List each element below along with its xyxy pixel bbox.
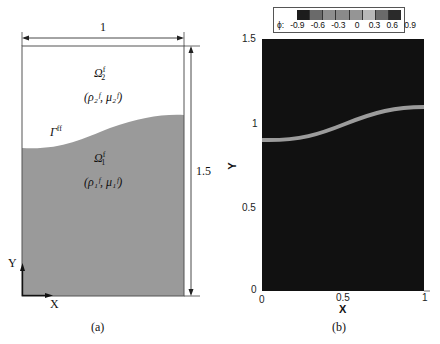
colorbar-cell xyxy=(310,10,323,20)
upper-domain-label: Ωf2 xyxy=(94,65,105,82)
colorbar-cell xyxy=(376,10,389,20)
lower-domain-label: Ωf1 xyxy=(94,150,105,167)
colorbar-tick: -0.3 xyxy=(331,20,345,30)
colorbar-cell xyxy=(389,10,401,20)
colorbar-variable: ϕ: xyxy=(277,20,284,30)
colorbar-tick: 0.3 xyxy=(369,20,381,30)
colorbar-tick: 0.9 xyxy=(404,20,416,30)
x-axis-title: X xyxy=(339,303,346,315)
upper-domain-properties: (ρ₂ᶠ, μ₂ᶠ) xyxy=(84,90,122,105)
diagram-canvas xyxy=(0,0,440,344)
colorbar-cell xyxy=(363,10,376,20)
axis-x-label-a: X xyxy=(50,297,59,312)
caption-a: (a) xyxy=(91,320,104,335)
axis-y-label-a: Y xyxy=(8,256,17,271)
colorbar-tick: 0 xyxy=(355,20,360,30)
colorbar-tick: 0.6 xyxy=(386,20,398,30)
width-label: 1 xyxy=(100,20,106,35)
x-tick: 0 xyxy=(259,294,265,305)
colorbar-cell xyxy=(350,10,363,20)
interface-label: Γff xyxy=(50,124,62,140)
colorbar-tick: -0.9 xyxy=(290,20,304,30)
x-tick: 1 xyxy=(422,292,428,303)
caption-b: (b) xyxy=(332,320,346,335)
lower-domain-properties: (ρ₁ᶠ, μ₁ᶠ) xyxy=(84,175,122,190)
height-label: 1.5 xyxy=(196,164,211,179)
y-tick: 0 xyxy=(251,284,257,295)
lower-fluid-region xyxy=(22,115,184,296)
colorbar-tick: -0.6 xyxy=(311,20,325,30)
colorbar-cell xyxy=(336,10,349,20)
y-tick: 1.5 xyxy=(242,33,256,44)
colorbar-legend: ϕ: -0.9 -0.6 -0.3 0 0.3 0.6 0.9 xyxy=(273,7,405,33)
colorbar-cell xyxy=(297,10,310,20)
colorbar-labels: ϕ: -0.9 -0.6 -0.3 0 0.3 0.6 0.9 xyxy=(277,20,420,30)
phase-field-plot xyxy=(262,39,424,291)
x-tick: 0.5 xyxy=(336,292,350,303)
y-axis-title: Y xyxy=(226,162,238,169)
y-tick: 1 xyxy=(252,118,258,129)
colorbar-cell xyxy=(323,10,336,20)
colorbar-cells xyxy=(297,10,401,20)
y-tick: 0.5 xyxy=(242,202,256,213)
